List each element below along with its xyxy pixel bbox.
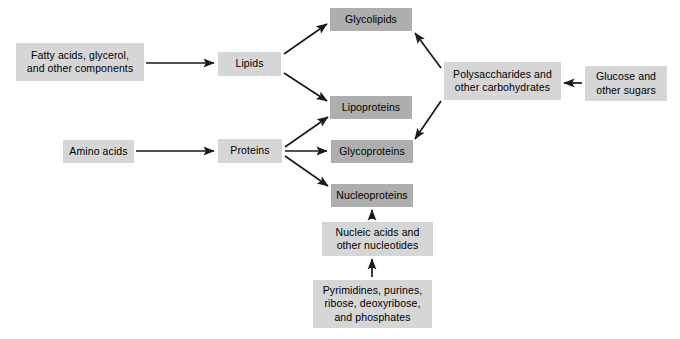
node-lipoproteins: Lipoproteins — [330, 96, 412, 119]
node-label: Pyrimidines, purines, ribose, deoxyribos… — [323, 284, 423, 325]
arrow-lipids-to-glycolipids — [284, 24, 327, 54]
node-glycolipids: Glycolipids — [330, 8, 412, 31]
node-label: Glycoproteins — [339, 145, 405, 159]
node-proteins: Proteins — [218, 139, 282, 163]
node-label: Nucleic acids and other nucleotides — [336, 226, 420, 253]
node-nucleic-acids: Nucleic acids and other nucleotides — [322, 222, 433, 256]
arrow-proteins-to-lipoproteins — [285, 117, 328, 147]
node-label: Glycolipids — [345, 13, 397, 27]
node-label: Fatty acids, glycerol, and other compone… — [27, 49, 134, 76]
arrow-polysaccharides-to-glycoproteins — [415, 101, 441, 139]
node-glucose: Glucose and other sugars — [585, 66, 667, 101]
arrow-lipids-to-lipoproteins — [284, 73, 327, 101]
node-label: Lipoproteins — [342, 101, 400, 115]
node-nucleoproteins: Nucleoproteins — [331, 184, 413, 207]
node-precursors: Pyrimidines, purines, ribose, deoxyribos… — [313, 280, 432, 328]
node-label: Lipids — [235, 57, 263, 71]
arrow-polysaccharides-to-glycolipids — [415, 33, 441, 68]
node-lipids: Lipids — [218, 52, 281, 76]
node-amino-acids: Amino acids — [63, 140, 134, 163]
node-label: Nucleoproteins — [336, 189, 407, 203]
node-glycoproteins: Glycoproteins — [331, 140, 413, 163]
node-label: Proteins — [230, 144, 269, 158]
node-fatty-acids: Fatty acids, glycerol, and other compone… — [16, 43, 144, 81]
node-label: Amino acids — [69, 145, 127, 159]
arrow-proteins-to-nucleoproteins — [285, 156, 328, 186]
flow-diagram: Fatty acids, glycerol, and other compone… — [0, 0, 680, 339]
node-polysaccharides: Polysaccharides and other carbohydrates — [444, 62, 561, 100]
node-label: Polysaccharides and other carbohydrates — [453, 68, 552, 95]
node-label: Glucose and other sugars — [596, 70, 656, 97]
